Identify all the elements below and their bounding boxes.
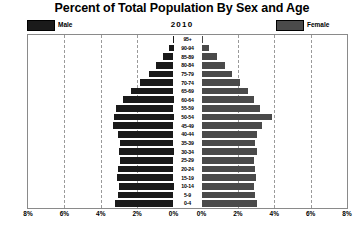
age-group-label: 85-89 [174,52,202,61]
pyramid-row: 80-84 [28,61,347,70]
pyramid-row: 40-44 [28,130,347,139]
bar-male-55-59 [116,105,173,112]
legend-swatch-female [276,20,304,31]
bar-male-75-79 [149,71,174,78]
xtick-female-4pct: 4% [270,210,279,217]
pyramid-row: 60-64 [28,95,347,104]
population-pyramid-chart: Percent of Total Population By Sex and A… [0,0,364,233]
pyramid-row: 25-29 [28,156,347,165]
bar-female-35-39 [202,140,256,147]
pyramid-row: 65-69 [28,87,347,96]
bar-male-25-29 [120,157,174,164]
bar-male-15-19 [117,174,173,181]
age-group-label: 5-9 [174,191,202,200]
age-group-label: 55-59 [174,104,202,113]
pyramid-row: 90-94 [28,44,347,53]
plot-area: 95+90-9485-8980-8475-7970-7465-6960-6455… [27,34,348,209]
bar-female-50-54 [202,114,273,121]
pyramid-row: 55-59 [28,104,347,113]
age-group-label: 30-34 [174,147,202,156]
bar-male-85-89 [163,53,173,60]
bar-female-15-19 [202,174,257,181]
age-group-label: 75-79 [174,70,202,79]
age-group-label: 90-94 [174,44,202,53]
bar-female-10-14 [202,183,255,190]
age-group-label: 10-14 [174,182,202,191]
xtick-female-6pct: 6% [306,210,315,217]
age-group-label: 65-69 [174,87,202,96]
xtick-female-8pct: 8% [342,210,351,217]
xtick-male-0pct: 0% [169,210,178,217]
bar-male-30-34 [119,148,174,155]
xtick-male-6pct: 6% [60,210,69,217]
pyramid-row: 35-39 [28,139,347,148]
bar-female-5-9 [202,192,256,199]
bar-female-40-44 [202,131,257,138]
x-axis-tick-labels: 8%6%4%2%0%0%2%4%6%8% [0,210,364,222]
pyramid-row: 50-54 [28,113,347,122]
xtick-male-8pct: 8% [23,210,32,217]
chart-legend: Male 2010 Female [0,19,364,32]
bar-male-20-24 [118,166,173,173]
bar-male-5-9 [118,192,173,199]
bar-female-95+ [202,36,204,43]
pyramid-row: 0-4 [28,199,347,208]
bar-female-60-64 [202,96,255,103]
pyramid-row: 30-34 [28,147,347,156]
bar-female-0-4 [202,200,257,207]
age-group-label: 70-74 [174,78,202,87]
xtick-female-2pct: 2% [233,210,242,217]
bar-female-55-59 [202,105,260,112]
age-group-label: 35-39 [174,139,202,148]
pyramid-row: 5-9 [28,191,347,200]
bar-male-10-14 [119,183,174,190]
pyramid-row: 75-79 [28,70,347,79]
age-group-label: 20-24 [174,165,202,174]
age-group-label: 45-49 [174,121,202,130]
bar-female-20-24 [202,166,256,173]
pyramid-row: 10-14 [28,182,347,191]
bar-female-45-49 [202,122,263,129]
xtick-male-2pct: 2% [132,210,141,217]
bar-male-60-64 [123,96,173,103]
age-group-label: 25-29 [174,156,202,165]
bar-male-50-54 [114,114,173,121]
xtick-female-0pct: 0% [197,210,206,217]
pyramid-row: 45-49 [28,121,347,130]
bar-male-45-49 [113,122,173,129]
bar-female-25-29 [202,157,255,164]
pyramid-row: 15-19 [28,173,347,182]
bar-male-35-39 [120,140,174,147]
bar-female-80-84 [202,62,226,69]
bar-female-65-69 [202,88,248,95]
pyramid-row: 95+ [28,35,347,44]
legend-label-female: Female [307,20,329,30]
pyramid-row: 20-24 [28,165,347,174]
age-group-label: 80-84 [174,61,202,70]
bar-female-75-79 [202,71,233,78]
bar-male-65-69 [131,88,174,95]
bar-male-0-4 [115,200,173,207]
bar-female-70-74 [202,79,240,86]
age-group-label: 15-19 [174,173,202,182]
bar-rows: 95+90-9485-8980-8475-7970-7465-6960-6455… [28,35,347,208]
chart-title: Percent of Total Population By Sex and A… [0,1,364,15]
bar-male-80-84 [156,62,173,69]
age-group-label: 60-64 [174,95,202,104]
bar-female-85-89 [202,53,217,60]
bar-male-40-44 [118,131,173,138]
age-group-label: 0-4 [174,199,202,208]
bar-male-70-74 [140,79,174,86]
age-group-label: 40-44 [174,130,202,139]
bar-female-30-34 [202,148,257,155]
xtick-male-4pct: 4% [96,210,105,217]
pyramid-row: 70-74 [28,78,347,87]
age-group-label: 95+ [174,35,202,44]
bar-female-90-94 [202,45,209,52]
pyramid-row: 85-89 [28,52,347,61]
age-group-label: 50-54 [174,113,202,122]
